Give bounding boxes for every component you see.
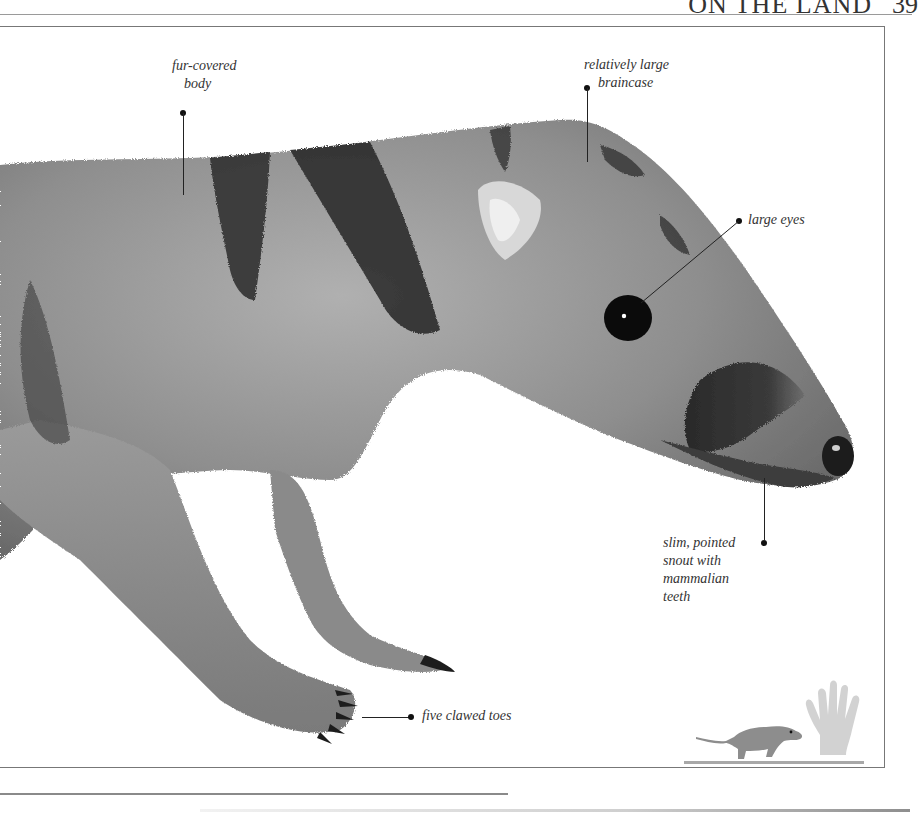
- hand-icon: [806, 681, 859, 756]
- callout-line: braincase: [584, 74, 669, 92]
- callout-fur-covered-body: fur-covered body: [172, 57, 237, 93]
- callout-line: mammalian: [663, 570, 735, 588]
- callout-line: five clawed toes: [422, 707, 511, 725]
- callout-large-eyes: large eyes: [748, 211, 805, 229]
- callout-line: teeth: [663, 588, 735, 606]
- callout-dot: [736, 218, 742, 224]
- leader-line: [764, 478, 765, 540]
- eye: [604, 295, 652, 341]
- animal-body: [0, 120, 853, 733]
- callout-relatively-large-braincase: relatively large braincase: [584, 56, 669, 92]
- callout-slim-pointed-snout: slim, pointed snout with mammalian teeth: [663, 534, 735, 606]
- leader-line: [183, 113, 184, 195]
- scale-comparison-figure: [680, 675, 870, 770]
- leader-line: [362, 717, 410, 718]
- callout-dot: [408, 714, 414, 720]
- callout-dot: [761, 540, 767, 546]
- ground-line: [684, 761, 864, 764]
- callout-line: relatively large: [584, 56, 669, 74]
- leader-line: [587, 88, 588, 162]
- nose: [822, 436, 854, 476]
- callout-five-clawed-toes: five clawed toes: [422, 707, 511, 725]
- callout-line: snout with: [663, 552, 735, 570]
- callout-line: fur-covered: [172, 57, 237, 75]
- callout-line: slim, pointed: [663, 534, 735, 552]
- callout-line: body: [172, 75, 237, 93]
- callout-line: large eyes: [748, 211, 805, 229]
- small-animal-icon: [696, 726, 802, 759]
